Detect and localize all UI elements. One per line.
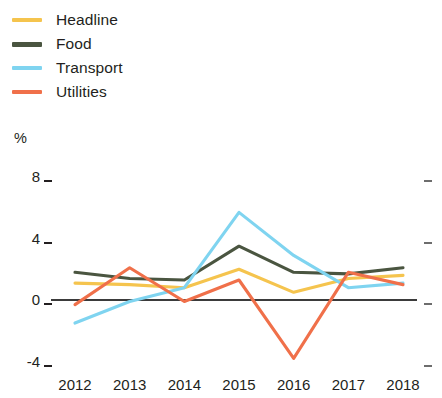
inflation-line-chart: Headline Food Transport Utilities % 840-… (0, 0, 442, 398)
y-axis-tick-label: 0 (6, 291, 40, 308)
y-axis-tick-mark-right (424, 303, 432, 305)
y-axis-tick-label: 4 (6, 230, 40, 247)
y-axis-tick-mark (44, 242, 52, 244)
series-line-utilities (75, 268, 403, 359)
y-axis-tick-mark (44, 365, 52, 367)
x-axis-tick-label: 2017 (325, 376, 371, 393)
plot-area: 840-42012201320142015201620172018 (0, 0, 442, 398)
x-axis-tick-label: 2013 (107, 376, 153, 393)
y-axis-tick-mark (44, 180, 52, 182)
y-axis-tick-label: -4 (6, 353, 40, 370)
y-axis-tick-mark (44, 303, 52, 305)
y-axis-tick-label: 8 (6, 168, 40, 185)
series-lines (0, 0, 442, 398)
x-axis-tick-label: 2012 (52, 376, 98, 393)
x-axis-tick-label: 2018 (380, 376, 426, 393)
y-axis-tick-mark-right (424, 242, 432, 244)
x-axis-tick-label: 2016 (271, 376, 317, 393)
y-axis-tick-mark-right (424, 180, 432, 182)
x-axis-tick-label: 2014 (161, 376, 207, 393)
y-axis-tick-mark-right (424, 365, 432, 367)
x-axis-tick-label: 2015 (216, 376, 262, 393)
